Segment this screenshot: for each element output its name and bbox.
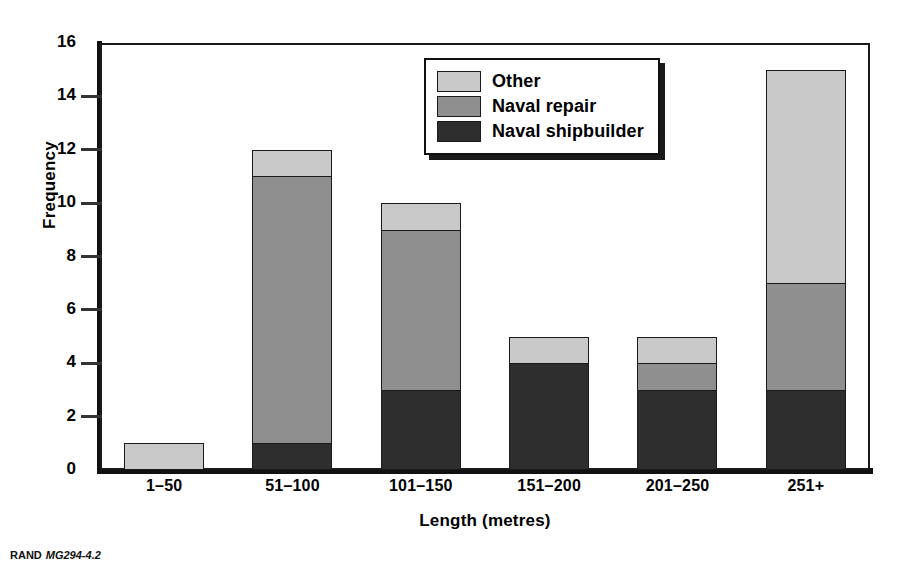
x-axis-tick-label: 251+ [742, 477, 870, 495]
bar-segment[interactable] [637, 337, 717, 364]
bar-segment[interactable] [381, 230, 461, 390]
x-axis-title: Length (metres) [100, 511, 870, 531]
y-axis-tick-label: 16 [18, 32, 76, 52]
bar-segment[interactable] [637, 363, 717, 390]
bar-group [742, 43, 870, 470]
legend-item[interactable]: Other [437, 69, 644, 94]
x-axis-tick-label: 101–150 [357, 477, 485, 495]
y-axis-tick [81, 415, 102, 418]
chart-legend: OtherNaval repairNaval shipbuilder [424, 58, 660, 155]
figure-container: Frequency 0246810121416 1–5051–100101–15… [0, 0, 908, 587]
bar-segment[interactable] [766, 70, 846, 284]
y-axis-tick [81, 362, 102, 365]
stacked-bar[interactable] [637, 337, 717, 470]
legend-label: Naval repair [492, 96, 596, 117]
bar-segment[interactable] [509, 363, 589, 470]
y-axis-tick [81, 308, 102, 311]
caption-figure-code: MG294-4.2 [46, 549, 101, 561]
y-axis-title: Frequency [40, 105, 60, 265]
bar-group [100, 43, 228, 470]
y-axis-tick [81, 148, 102, 151]
bar-group [228, 43, 356, 470]
stacked-bar[interactable] [124, 443, 204, 470]
y-axis-tick-label: 12 [18, 139, 76, 159]
stacked-bar[interactable] [381, 203, 461, 470]
x-axis-tick-label: 1–50 [100, 477, 228, 495]
bar-segment[interactable] [766, 283, 846, 390]
legend-swatch-icon [437, 96, 481, 117]
bar-segment[interactable] [252, 176, 332, 443]
y-axis-tick-label: 8 [18, 246, 76, 266]
legend-item[interactable]: Naval shipbuilder [437, 119, 644, 144]
y-axis-tick-label: 0 [18, 459, 76, 479]
caption-publisher: RAND [10, 549, 42, 561]
stacked-bar[interactable] [252, 150, 332, 470]
bar-segment[interactable] [252, 443, 332, 470]
legend-swatch-icon [437, 121, 481, 142]
y-axis-tick-label: 14 [18, 85, 76, 105]
legend-label: Naval shipbuilder [492, 121, 644, 142]
stacked-bar[interactable] [766, 70, 846, 470]
y-axis-tick-label: 10 [18, 192, 76, 212]
x-axis-tick-labels: 1–5051–100101–150151–200201–250251+ [100, 477, 870, 505]
stacked-bar[interactable] [509, 337, 589, 470]
figure-caption: RANDMG294-4.2 [10, 549, 101, 561]
y-axis-tick-label: 2 [18, 406, 76, 426]
bar-segment[interactable] [381, 390, 461, 470]
y-axis-tick [81, 202, 102, 205]
bar-segment[interactable] [509, 337, 589, 364]
legend-item[interactable]: Naval repair [437, 94, 644, 119]
y-axis-tick [81, 255, 102, 258]
x-axis-tick-label: 51–100 [228, 477, 356, 495]
bar-segment[interactable] [637, 390, 717, 470]
bar-segment[interactable] [252, 150, 332, 177]
x-axis-tick-label: 201–250 [613, 477, 741, 495]
bar-segment[interactable] [124, 443, 204, 470]
bar-segment[interactable] [766, 390, 846, 470]
legend-swatch-icon [437, 71, 481, 92]
bar-segment[interactable] [381, 203, 461, 230]
y-axis-tick-label: 6 [18, 299, 76, 319]
y-axis-tick [81, 95, 102, 98]
y-axis-tick-label: 4 [18, 352, 76, 372]
legend-label: Other [492, 71, 541, 92]
x-axis-tick-label: 151–200 [485, 477, 613, 495]
